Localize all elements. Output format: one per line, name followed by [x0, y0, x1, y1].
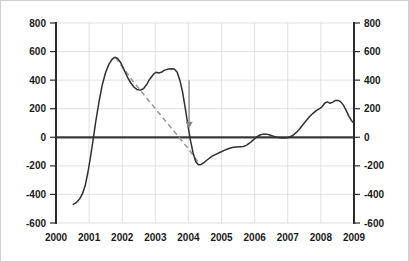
y-tick-left: 400 [29, 75, 46, 86]
y-tick-left: -400 [26, 189, 46, 200]
x-tick: 2002 [111, 232, 134, 243]
x-tick: 2000 [45, 232, 68, 243]
y-tick-right: -600 [364, 218, 384, 229]
x-tick: 2008 [310, 232, 333, 243]
x-tick: 2003 [144, 232, 167, 243]
line-chart: 800 600 400 200 0 -200 -400 -600 800 600… [1, 1, 409, 262]
x-tick: 2004 [177, 232, 200, 243]
x-tick: 2007 [277, 232, 300, 243]
y-tick-left: 600 [29, 46, 46, 57]
y-tick-left: 200 [29, 103, 46, 114]
y-tick-right: 0 [364, 132, 370, 143]
x-tick-labels: 2000 2001 2002 2003 2004 2005 2006 2007 … [45, 232, 366, 243]
left-axis [50, 23, 56, 223]
y-tick-left: 0 [40, 132, 46, 143]
right-y-tick-labels: 800 600 400 200 0 -200 -400 -600 [364, 18, 384, 229]
y-tick-right: 800 [364, 18, 381, 29]
y-tick-right: 600 [364, 46, 381, 57]
y-tick-right: 200 [364, 103, 381, 114]
plot-area-background [56, 23, 354, 223]
y-tick-left: -200 [26, 160, 46, 171]
x-tick: 2001 [78, 232, 101, 243]
left-y-tick-labels: 800 600 400 200 0 -200 -400 -600 [26, 18, 46, 229]
x-tick: 2009 [343, 232, 366, 243]
y-tick-left: -600 [26, 218, 46, 229]
chart-figure: 800 600 400 200 0 -200 -400 -600 800 600… [0, 0, 409, 262]
x-tick: 2006 [244, 232, 267, 243]
y-tick-right: -400 [364, 189, 384, 200]
x-tick: 2005 [210, 232, 233, 243]
y-tick-left: 800 [29, 18, 46, 29]
y-tick-right: -200 [364, 160, 384, 171]
y-tick-right: 400 [364, 75, 381, 86]
right-axis [354, 23, 360, 223]
